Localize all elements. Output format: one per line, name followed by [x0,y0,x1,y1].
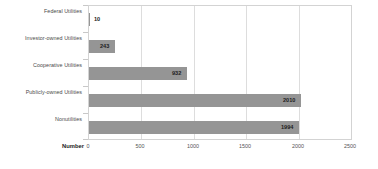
bar-value-nonutilities: 1994 [281,123,293,131]
category-label-nonutilities: Nonutilities [0,116,82,122]
x-tick-label-2000: 2000 [290,143,306,150]
bar-chart: Federal Utilities Investor-owned Utiliti… [0,0,378,169]
plot-area: 10 243 932 2010 1994 [88,5,352,140]
plot-inner: 10 243 932 2010 1994 [89,6,351,139]
bar-value-federal-utilities: 10 [94,15,100,23]
bar-value-cooperative-utilities: 932 [172,69,181,77]
gridline-1000 [194,6,195,139]
category-label-investor-owned-utilities: Investor-owned Utilities [0,35,82,41]
bar-value-investor-owned-utilities: 243 [100,42,109,50]
bar-federal-utilities[interactable] [89,13,90,26]
category-label-federal-utilities: Federal Utilities [0,8,82,14]
category-label-cooperative-utilities: Cooperative Utilities [0,62,82,68]
category-axis-labels: Federal Utilities Investor-owned Utiliti… [0,5,86,140]
x-axis: 0 500 1000 1500 2000 2500 [88,140,352,154]
category-label-publicly-owned-utilities: Publicly-owned Utilities [0,89,82,95]
bar-value-publicly-owned-utilities: 2010 [283,96,295,104]
x-axis-title: Number [40,143,84,150]
bar-publicly-owned-utilities[interactable] [89,94,301,107]
x-tick-label-2500: 2500 [342,143,358,150]
x-tick-label-1000: 1000 [185,143,201,150]
gridline-1500 [246,6,247,139]
x-tick-label-1500: 1500 [237,143,253,150]
x-tick-label-500: 500 [132,143,148,150]
gridline-2000 [299,6,300,139]
bar-nonutilities[interactable] [89,121,299,134]
